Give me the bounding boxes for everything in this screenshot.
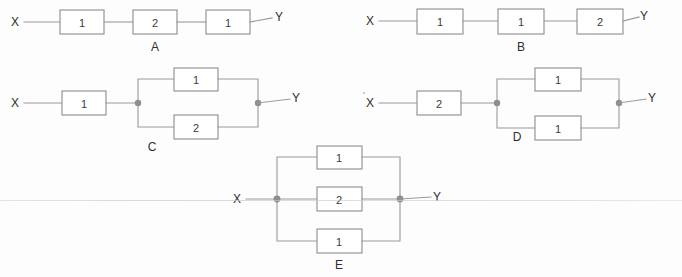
- circuit-c-parallel-box-1-label: 1: [193, 74, 199, 86]
- circuit-e-wire-top-right: [362, 157, 400, 199]
- circuit-c-series-box-label: 1: [81, 98, 87, 110]
- circuit-e-node-left: [274, 196, 281, 203]
- circuit-b-name: B: [517, 40, 525, 54]
- circuit-e-parallel-box-2-label: 2: [336, 194, 342, 206]
- circuit-b-wire-out: [623, 17, 639, 21]
- circuit-b-right-terminal-label: Y: [640, 9, 648, 23]
- circuit-d-left-terminal-label: X: [366, 96, 374, 110]
- circuit-e-parallel-box-3-label: 1: [336, 236, 342, 248]
- diagram-canvas: X 1 2 1 Y A X 1 1 2 Y: [0, 0, 682, 277]
- circuit-a-name: A: [151, 40, 159, 54]
- circuit-d-series-box-label: 2: [436, 98, 442, 110]
- circuit-d-wire-top-left: [497, 79, 535, 103]
- circuit-c-wire-out: [258, 99, 290, 103]
- circuit-e-wire-top-left: [277, 157, 317, 199]
- circuit-d-wire-bottom-left: [497, 103, 535, 128]
- circuit-c-node-left: [135, 100, 141, 106]
- circuit-c-wire-top-left: [138, 79, 174, 103]
- circuit-d-right-terminal-label: Y: [648, 91, 656, 105]
- circuit-a-box-3-label: 1: [225, 17, 231, 29]
- circuit-b-box-1-label: 1: [437, 16, 443, 28]
- circuit-e-wire-bottom-left: [277, 199, 317, 241]
- circuit-a-right-terminal-label: Y: [275, 10, 283, 24]
- circuit-d-parallel-box-2-label: 1: [555, 123, 561, 135]
- circuit-b: X 1 1 2 Y B: [355, 0, 645, 60]
- scan-speck: [363, 92, 365, 94]
- circuit-c-wire-bottom-left: [138, 103, 174, 127]
- circuit-c-wire-top-right: [218, 79, 258, 103]
- circuit-c-parallel-box-2-label: 2: [193, 122, 199, 134]
- circuit-b-box-3-label: 2: [597, 16, 603, 28]
- circuit-c-wire-bottom-right: [218, 103, 258, 127]
- circuit-c-name: C: [148, 140, 157, 154]
- circuit-b-left-terminal-label: X: [366, 14, 374, 28]
- circuit-d-node-left: [494, 100, 500, 106]
- circuit-a-box-2-label: 2: [152, 17, 158, 29]
- circuit-a-wire-out: [250, 18, 272, 22]
- circuit-e-parallel-box-1-label: 1: [336, 152, 342, 164]
- circuit-b-box-2-label: 1: [518, 16, 524, 28]
- circuit-a-box-1-label: 1: [79, 17, 85, 29]
- circuit-e-name: E: [335, 258, 343, 272]
- circuit-e-wire-out: [400, 197, 431, 199]
- circuit-e-left-terminal-label: X: [233, 192, 241, 206]
- circuit-e: X 1 2 1 Y E: [225, 142, 455, 272]
- circuit-c-right-terminal-label: Y: [292, 91, 300, 105]
- circuit-a-left-terminal-label: X: [11, 15, 19, 29]
- circuit-e-right-terminal-label: Y: [433, 190, 441, 204]
- circuit-d-parallel-box-1-label: 1: [555, 74, 561, 86]
- circuit-d-wire-bottom-right: [581, 103, 619, 128]
- circuit-d-name: D: [513, 130, 522, 144]
- circuit-d-wire-top-right: [581, 79, 619, 103]
- circuit-d-wire-out: [619, 99, 646, 103]
- circuit-a: X 1 2 1 Y A: [0, 0, 280, 60]
- circuit-e-wire-bottom-right: [362, 199, 400, 241]
- circuit-c-left-terminal-label: X: [11, 96, 19, 110]
